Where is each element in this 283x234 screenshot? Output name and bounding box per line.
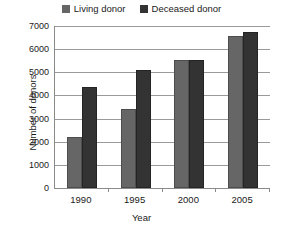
bar-living-donor-2005 bbox=[228, 36, 243, 188]
x-tick-mark bbox=[108, 188, 109, 192]
legend-swatch-living-donor bbox=[62, 5, 70, 13]
y-tick-label: 4000 bbox=[15, 91, 49, 100]
legend-label-deceased-donor: Deceased donor bbox=[152, 4, 222, 14]
y-tick-label: 3000 bbox=[15, 114, 49, 123]
plot-area bbox=[54, 26, 270, 189]
bar-group bbox=[55, 26, 109, 188]
bar-group bbox=[109, 26, 163, 188]
bar-living-donor-1995 bbox=[121, 109, 136, 188]
y-tick-label: 5000 bbox=[15, 68, 49, 77]
y-tick-label: 0 bbox=[15, 184, 49, 193]
bar-deceased-donor-1990 bbox=[82, 87, 97, 188]
bar-group bbox=[163, 26, 217, 188]
bar-living-donor-1990 bbox=[67, 137, 82, 188]
legend-swatch-deceased-donor bbox=[140, 5, 148, 13]
legend-item-living-donor: Living donor bbox=[62, 4, 126, 14]
x-tick-mark bbox=[269, 188, 270, 192]
x-tick-label: 1995 bbox=[110, 194, 160, 205]
x-tick-mark bbox=[162, 188, 163, 192]
bar-deceased-donor-2000 bbox=[189, 60, 204, 188]
y-tick-label: 6000 bbox=[15, 45, 49, 54]
x-tick-label: 2000 bbox=[163, 194, 213, 205]
bar-group bbox=[216, 26, 270, 188]
x-tick-mark bbox=[215, 188, 216, 192]
y-axis-ticks: 01000200030004000500060007000 bbox=[15, 0, 49, 234]
y-tick-label: 1000 bbox=[15, 160, 49, 169]
bar-living-donor-2000 bbox=[174, 60, 189, 188]
bar-deceased-donor-2005 bbox=[243, 32, 258, 188]
bar-chart: Living donor Deceased donor Number of do… bbox=[0, 0, 283, 234]
y-tick-label: 2000 bbox=[15, 137, 49, 146]
legend-item-deceased-donor: Deceased donor bbox=[140, 4, 222, 14]
y-tick-label: 7000 bbox=[15, 22, 49, 31]
legend-label-living-donor: Living donor bbox=[74, 4, 126, 14]
bar-deceased-donor-1995 bbox=[136, 70, 151, 188]
x-tick-label: 2005 bbox=[217, 194, 267, 205]
x-tick-label: 1990 bbox=[56, 194, 106, 205]
x-axis-title: Year bbox=[0, 212, 283, 223]
